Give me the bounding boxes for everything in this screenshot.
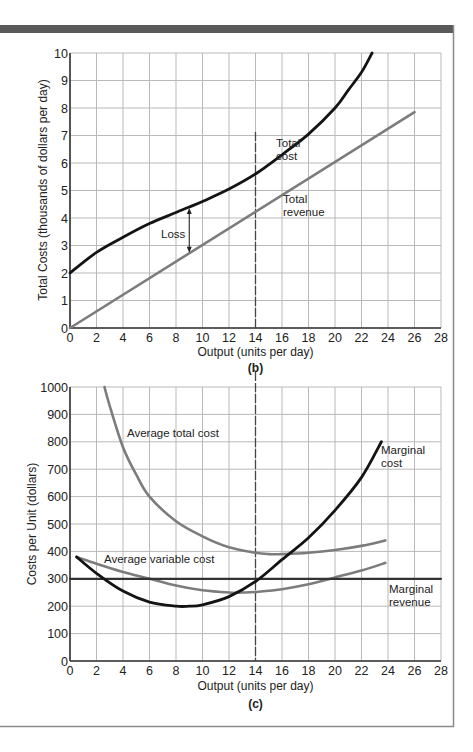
label-average-variable-cost: Average variable cost — [104, 553, 215, 565]
y-tick-label: 0 — [61, 655, 68, 669]
label-average-total-cost: Average total cost — [127, 427, 220, 439]
top-x-axis-title: Output (units per day) — [197, 345, 313, 359]
loss-arrow — [187, 208, 192, 253]
y-tick-label: 6 — [61, 157, 68, 171]
label-total-revenue-2: revenue — [283, 206, 325, 218]
x-tick-label: 10 — [196, 664, 210, 678]
x-tick-label: 2 — [93, 664, 100, 678]
top-y-axis-title: Total Costs (thousands of dollars per da… — [36, 79, 50, 300]
x-tick-label: 14 — [249, 664, 263, 678]
y-tick-label: 600 — [47, 490, 68, 504]
x-tick-label: 18 — [302, 331, 316, 345]
x-tick-label: 8 — [173, 331, 180, 345]
y-tick-label: 1000 — [40, 381, 68, 395]
label-marginal-revenue-2: revenue — [389, 596, 431, 608]
x-tick-label: 28 — [434, 331, 448, 345]
y-tick-label: 10 — [54, 47, 68, 61]
x-tick-label: 26 — [408, 664, 422, 678]
x-tick-label: 12 — [222, 664, 236, 678]
x-tick-label: 6 — [146, 664, 153, 678]
y-tick-label: 400 — [47, 545, 68, 559]
y-tick-label: 1 — [61, 294, 68, 308]
average-total-cost-curve — [105, 387, 386, 554]
x-tick-label: 18 — [302, 664, 316, 678]
y-tick-label: 8 — [61, 102, 68, 116]
label-marginal-cost-2: cost — [381, 457, 403, 469]
y-tick-label: 700 — [47, 463, 68, 477]
y-tick-label: 4 — [61, 212, 68, 226]
x-tick-label: 24 — [381, 664, 395, 678]
y-tick-label: 800 — [47, 435, 68, 449]
bottom-x-axis-title: Output (units per day) — [197, 679, 313, 693]
x-tick-label: 24 — [381, 331, 395, 345]
x-tick-label: 22 — [355, 664, 369, 678]
x-tick-label: 16 — [275, 664, 289, 678]
total-cost-revenue-chart: 0246810121416182022242628012345678910 To… — [36, 47, 448, 376]
y-tick-label: 3 — [61, 239, 68, 253]
label-marginal-revenue-1: Marginal — [389, 583, 433, 595]
bottom-panel-label: (c) — [248, 697, 263, 711]
x-tick-label: 6 — [146, 331, 153, 345]
x-tick-label: 10 — [196, 331, 210, 345]
x-tick-label: 12 — [222, 331, 236, 345]
y-tick-label: 100 — [47, 627, 68, 641]
label-total-revenue-1: Total — [283, 193, 307, 205]
x-tick-label: 4 — [120, 664, 127, 678]
x-tick-label: 20 — [328, 664, 342, 678]
label-total-cost-1: Total — [276, 137, 300, 149]
y-tick-label: 300 — [47, 572, 68, 586]
total-revenue-line — [70, 112, 415, 328]
x-tick-label: 16 — [275, 331, 289, 345]
x-tick-label: 8 — [173, 664, 180, 678]
label-loss: Loss — [161, 228, 186, 240]
x-tick-label: 20 — [328, 331, 342, 345]
x-tick-label: 4 — [120, 331, 127, 345]
y-tick-label: 500 — [47, 518, 68, 532]
y-tick-label: 200 — [47, 600, 68, 614]
x-tick-label: 2 — [93, 331, 100, 345]
x-tick-label: 22 — [355, 331, 369, 345]
x-tick-label: 26 — [408, 331, 422, 345]
label-marginal-cost-1: Marginal — [381, 444, 425, 456]
per-unit-cost-chart: 0246810121416182022242628010020030040050… — [25, 372, 448, 711]
x-tick-label: 28 — [434, 664, 448, 678]
figure: 0246810121416182022242628012345678910 To… — [0, 0, 473, 752]
header-bar — [0, 25, 454, 33]
y-tick-label: 900 — [47, 408, 68, 422]
y-tick-label: 5 — [61, 184, 68, 198]
label-total-cost-2: cost — [276, 150, 298, 162]
y-tick-label: 9 — [61, 74, 68, 88]
bottom-y-axis-title: Costs per Unit (dollars) — [25, 463, 39, 586]
y-tick-label: 0 — [61, 322, 68, 336]
y-tick-label: 2 — [61, 267, 68, 281]
x-tick-label: 14 — [249, 331, 263, 345]
y-tick-label: 7 — [61, 129, 68, 143]
